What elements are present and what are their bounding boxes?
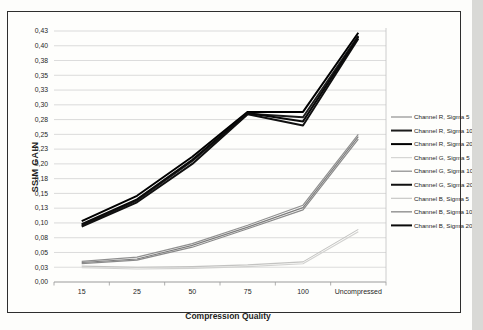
y-tick-label: 0,28 [35, 116, 48, 123]
legend-item-label: Channel R, Sigma 20 [414, 140, 473, 147]
x-tick-label: 100 [297, 288, 309, 295]
x-tick-label: 50 [188, 288, 196, 295]
y-tick-label: 0,13 [35, 204, 48, 211]
y-tick-label: 0,00 [35, 278, 48, 285]
legend-item-label: Channel R, Sigma 10 [414, 127, 473, 134]
y-tick-label: 0,43 [35, 27, 48, 34]
y-tick-label: 0,03 [35, 264, 48, 271]
line-chart: 0,000,030,050,080,100,130,150,180,200,23… [0, 0, 483, 330]
scan-edge-strip [472, 0, 483, 330]
legend-item-label: Channel G, Sigma 20 [414, 181, 474, 188]
x-tick-label: 25 [133, 288, 141, 295]
legend-item-label: Channel B, Sigma 5 [414, 195, 470, 202]
y-tick-label: 0,10 [35, 219, 48, 226]
series-line-channel-g-sigma-20 [82, 39, 359, 227]
series-line-channel-r-sigma-5 [82, 134, 359, 261]
y-tick-label: 0,23 [35, 145, 48, 152]
y-tick-label: 0,18 [35, 175, 48, 182]
y-tick-label: 0,35 [35, 72, 48, 79]
x-tick-label: 15 [78, 288, 86, 295]
y-tick-label: 0,40 [35, 42, 48, 49]
legend-item-label: Channel R, Sigma 5 [414, 113, 470, 120]
legend-item-label: Channel G, Sigma 5 [414, 154, 470, 161]
x-tick-label: 75 [244, 288, 252, 295]
x-tick-label: Uncompressed [335, 288, 382, 296]
y-tick-label: 0,20 [35, 160, 48, 167]
y-tick-label: 0,05 [35, 249, 48, 256]
series-line-channel-b-sigma-10 [82, 137, 359, 263]
y-tick-label: 0,30 [35, 101, 48, 108]
y-tick-label: 0,33 [35, 86, 48, 93]
legend-item-label: Channel B, Sigma 20 [414, 222, 473, 229]
chart-figure: SSIM GAIN Compression Quality 0,000,030,… [0, 0, 483, 330]
y-tick-label: 0,08 [35, 234, 48, 241]
legend-item-label: Channel B, Sigma 10 [414, 208, 473, 215]
series-line-channel-r-sigma-10 [82, 36, 359, 226]
y-tick-label: 0,25 [35, 131, 48, 138]
series-line-channel-b-sigma-20 [82, 37, 359, 224]
y-tick-label: 0,15 [35, 190, 48, 197]
legend-item-label: Channel G, Sigma 10 [414, 167, 474, 174]
y-tick-label: 0,38 [35, 57, 48, 64]
